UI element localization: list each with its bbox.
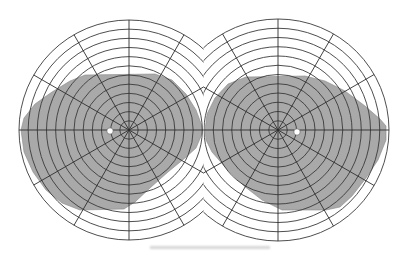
visual-field-diagram [0,0,406,253]
right-visual-field-region [205,76,386,210]
left-blind-spot-icon [107,128,113,134]
figure-caption [150,246,270,249]
right-blind-spot-icon [294,129,300,135]
